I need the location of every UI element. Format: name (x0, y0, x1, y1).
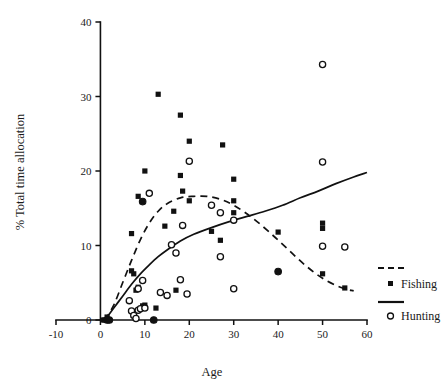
x-tick-label-20: 20 (184, 328, 196, 340)
data-point (319, 61, 325, 67)
data-point (209, 229, 214, 234)
data-point (231, 198, 236, 203)
data-point (320, 221, 325, 226)
x-tick-label-0: 0 (98, 328, 104, 340)
data-point (178, 113, 183, 118)
data-point (319, 243, 325, 249)
data-point (178, 173, 183, 178)
x-tick-label-60: 60 (362, 328, 374, 340)
y-tick-label-10: 10 (80, 240, 92, 252)
data-point (150, 317, 157, 324)
data-point (136, 194, 141, 199)
y-axis-title: % Total time allocation (13, 113, 27, 230)
data-point (131, 271, 136, 276)
data-point (106, 317, 113, 324)
data-point (231, 286, 237, 292)
legend-hunting-marker (388, 313, 394, 319)
data-point (276, 229, 281, 234)
data-point (153, 305, 158, 310)
x-axis-ticks: -100102030405060 (49, 320, 373, 340)
data-point (184, 291, 190, 297)
data-point (342, 285, 347, 290)
overlap-data-points (104, 198, 282, 323)
data-point (319, 159, 325, 165)
data-point (208, 202, 214, 208)
data-point (231, 217, 237, 223)
scatter-plot: 010203040 -100102030405060 Age % Total t… (0, 0, 447, 389)
data-point (320, 271, 325, 276)
data-point (180, 222, 186, 228)
data-point (177, 277, 183, 283)
data-point (135, 286, 141, 292)
data-point (139, 198, 146, 205)
x-tick-label-50: 50 (317, 328, 329, 340)
figure-container: 010203040 -100102030405060 Age % Total t… (0, 0, 447, 389)
data-point (129, 231, 134, 236)
data-point (173, 288, 178, 293)
data-point (217, 210, 223, 216)
data-point (231, 177, 236, 182)
x-tick-label--10: -10 (49, 328, 64, 340)
x-tick-label-40: 40 (273, 328, 285, 340)
data-point (162, 224, 167, 229)
x-tick-label-10: 10 (139, 328, 151, 340)
y-tick-label-40: 40 (80, 16, 92, 28)
x-axis-title: Age (202, 365, 223, 379)
y-tick-label-30: 30 (80, 91, 92, 103)
y-axis-ticks: 010203040 (80, 16, 100, 326)
data-point (164, 292, 170, 298)
fishing-fit-curve (105, 196, 354, 320)
data-point (186, 158, 192, 164)
data-point (187, 198, 192, 203)
legend-fishing-marker (388, 281, 393, 286)
x-tick-label-30: 30 (228, 328, 240, 340)
data-point (126, 298, 132, 304)
data-point (180, 189, 185, 194)
data-point (146, 190, 152, 196)
hunting-data-points (126, 61, 348, 321)
data-point (218, 238, 223, 243)
legend-hunting-label: Hunting (401, 309, 440, 323)
data-point (157, 289, 163, 295)
data-point (275, 268, 282, 275)
data-point (220, 142, 225, 147)
legend-fishing-label: Fishing (401, 277, 437, 291)
data-point (217, 254, 223, 260)
hunting-fit-curve (105, 172, 367, 320)
data-point (142, 168, 147, 173)
data-point (168, 242, 174, 248)
data-point (342, 244, 348, 250)
data-point (231, 210, 236, 215)
data-point (171, 209, 176, 214)
y-tick-label-20: 20 (80, 165, 92, 177)
data-point (133, 315, 139, 321)
data-point (173, 250, 179, 256)
data-point (156, 92, 161, 97)
data-point (320, 226, 325, 231)
data-point (187, 139, 192, 144)
data-point (142, 305, 148, 311)
data-point (140, 277, 146, 283)
chart-legend: Fishing Hunting (378, 268, 440, 323)
